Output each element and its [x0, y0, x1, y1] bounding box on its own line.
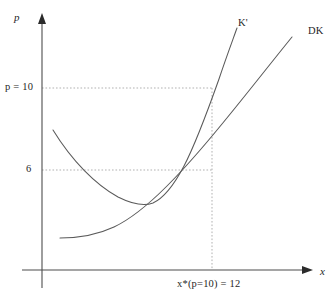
curve-dk	[60, 37, 292, 238]
x-tick-label-xstar: x*(p=10) = 12	[177, 279, 240, 290]
chart-figure: p x p = 10 6 x*(p=10) = 12 K' DK	[0, 0, 336, 306]
curve-k-prime	[53, 28, 237, 205]
y-axis-label: p	[14, 12, 20, 23]
y-tick-label-6: 6	[26, 164, 31, 175]
curve-label-dk: DK	[308, 26, 324, 37]
y-tick-label-p10: p = 10	[5, 82, 33, 93]
x-axis-arrow-icon	[302, 266, 313, 274]
y-axis-arrow-icon	[38, 13, 46, 24]
x-axis-label: x	[320, 266, 325, 277]
curve-label-k-prime: K'	[238, 18, 248, 29]
chart-plot-area	[0, 0, 336, 306]
